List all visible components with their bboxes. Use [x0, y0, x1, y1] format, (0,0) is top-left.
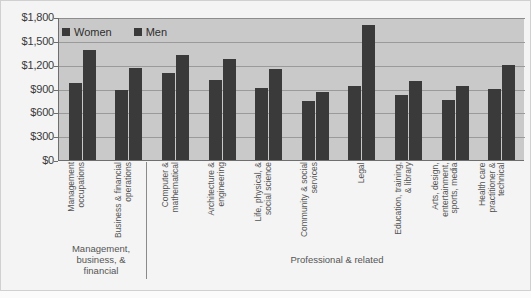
bar-women[interactable] — [302, 101, 315, 160]
y-axis-labels: $0$300$600$900$1,200$1,500$1,800 — [0, 0, 54, 180]
plot-area — [58, 18, 524, 161]
bar-group — [255, 17, 282, 160]
x-axis-label: Legal — [356, 162, 366, 240]
bar-men[interactable] — [502, 65, 515, 160]
y-axis-tick-label: $1,500 — [0, 36, 54, 47]
y-axis-tick-label: $600 — [0, 107, 54, 118]
bar-women[interactable] — [69, 83, 82, 160]
bar-men[interactable] — [129, 68, 142, 160]
bar-group — [395, 17, 422, 160]
bar-women[interactable] — [209, 80, 222, 160]
y-axis-tick-label: $300 — [0, 131, 54, 142]
x-axis-label: Life, physical, & social science — [254, 162, 273, 240]
chart-legend: WomenMen — [62, 25, 167, 39]
bar-women[interactable] — [488, 89, 501, 160]
x-axis-label: Business & financial operations — [114, 162, 133, 240]
bar-men[interactable] — [316, 92, 329, 160]
y-axis-tick-label: $0 — [0, 155, 54, 166]
bar-group — [209, 17, 236, 160]
x-axis-label: Arts, design, entertainment, sports, med… — [431, 162, 460, 240]
x-axis-category-labels: Management occupationsBusiness & financi… — [58, 162, 524, 242]
group-label-professional: Professional & related — [150, 254, 524, 265]
bar-men[interactable] — [269, 69, 282, 160]
x-axis-label: Community & social services — [300, 162, 319, 240]
bar-group — [488, 17, 515, 160]
bar-group — [348, 17, 375, 160]
x-axis-label: Education, training, & library — [394, 162, 413, 240]
bar-men[interactable] — [176, 55, 189, 160]
bar-men[interactable] — [83, 50, 96, 160]
x-axis-label: Health care practitioner & technical — [477, 162, 506, 240]
group-divider — [146, 162, 147, 279]
legend-item-women[interactable]: Women — [62, 26, 112, 38]
bar-group — [302, 17, 329, 160]
x-axis-label: Management occupations — [67, 162, 86, 240]
bar-women[interactable] — [348, 86, 361, 160]
y-axis-tick-label: $1,200 — [0, 60, 54, 71]
bar-women[interactable] — [395, 95, 408, 160]
bar-women[interactable] — [442, 100, 455, 160]
bar-group — [442, 17, 469, 160]
legend-swatch-icon — [134, 28, 142, 36]
bar-men[interactable] — [456, 86, 469, 160]
bar-women[interactable] — [162, 73, 175, 160]
bar-women[interactable] — [255, 88, 268, 160]
legend-label: Men — [146, 26, 167, 38]
group-label-management: Management, business, & financial — [58, 243, 144, 276]
x-axis-label: Architecture & engineering — [207, 162, 226, 240]
chart-page: $0$300$600$900$1,200$1,500$1,800 WomenMe… — [0, 0, 531, 298]
y-axis-tick-label: $1,800 — [0, 12, 54, 23]
bar-men[interactable] — [409, 81, 422, 160]
bar-women[interactable] — [115, 90, 128, 160]
legend-swatch-icon — [62, 28, 70, 36]
bar-men[interactable] — [362, 25, 375, 160]
bar-men[interactable] — [223, 59, 236, 160]
y-axis-tick-label: $900 — [0, 84, 54, 95]
legend-item-men[interactable]: Men — [134, 26, 167, 38]
x-axis-label: Computer & mathematical — [161, 162, 180, 240]
legend-label: Women — [74, 26, 112, 38]
